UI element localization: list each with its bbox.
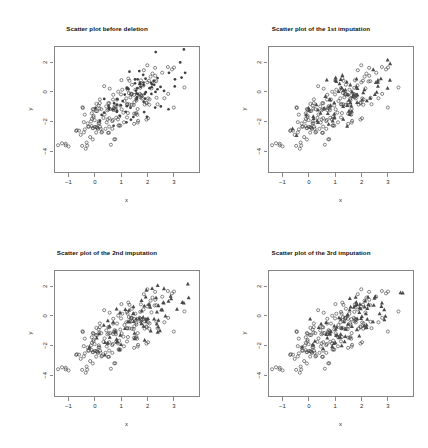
data-point-observed (133, 346, 136, 349)
x-axis-title: x (339, 421, 342, 427)
data-points-layer (57, 48, 187, 150)
data-point-deleted (103, 111, 106, 114)
y-axis-title: y (27, 332, 33, 335)
data-point-imputed (365, 317, 369, 321)
data-point-observed (318, 351, 321, 354)
data-point-observed (82, 121, 85, 124)
data-point-imputed (143, 338, 147, 342)
data-point-observed (123, 323, 126, 326)
data-point-observed (309, 131, 312, 134)
data-point-deleted (116, 111, 119, 114)
data-point-imputed (141, 315, 145, 319)
data-point-deleted (99, 119, 102, 122)
data-point-imputed (365, 98, 369, 102)
data-point-deleted (142, 81, 145, 84)
data-point-deleted (125, 121, 128, 124)
data-point-observed (139, 303, 142, 306)
data-point-deleted (113, 102, 116, 105)
data-point-deleted (150, 93, 153, 96)
data-point-imputed (388, 78, 392, 82)
x-tick-label: 2 (360, 403, 364, 409)
y-tick-label: 0 (256, 314, 262, 318)
data-point-imputed (386, 58, 390, 62)
x-tick-label: 1 (334, 403, 338, 409)
data-point-observed (386, 66, 389, 69)
data-point-imputed (332, 324, 336, 328)
data-point-observed (300, 368, 303, 371)
panel-imputation-3: Scatter plot of the 3rd imputation −1012… (214, 224, 428, 448)
data-point-observed (315, 354, 318, 357)
data-point-observed (319, 105, 322, 108)
y-axis-title: y (241, 108, 247, 111)
data-point-deleted (123, 93, 126, 96)
data-point-deleted (121, 100, 124, 103)
panel-before-deletion: Scatter plot before deletion −1012320−2−… (0, 0, 214, 224)
data-point-deleted (154, 91, 157, 94)
data-point-deleted (183, 48, 186, 51)
x-tick-label: 3 (172, 179, 176, 185)
data-point-observed (315, 130, 318, 133)
data-point-observed (360, 288, 363, 291)
data-point-observed (149, 299, 152, 302)
data-point-observed (274, 142, 277, 145)
data-point-imputed (340, 86, 344, 90)
data-point-observed (381, 316, 384, 319)
data-point-observed (370, 327, 373, 330)
data-point-observed (397, 310, 400, 313)
data-point-observed (154, 74, 157, 77)
data-point-observed (317, 309, 320, 312)
data-point-imputed (149, 329, 153, 333)
data-point-deleted (136, 96, 139, 99)
data-point-imputed (340, 343, 344, 347)
data-point-observed (161, 295, 164, 298)
data-point-deleted (135, 89, 138, 92)
data-point-observed (325, 127, 328, 130)
data-point-observed (125, 116, 128, 119)
data-point-imputed (347, 98, 351, 102)
data-point-observed (115, 322, 118, 325)
data-point-observed (172, 290, 175, 293)
data-point-deleted (124, 110, 127, 113)
data-point-observed (84, 147, 87, 150)
x-tick-label: 3 (172, 403, 176, 409)
data-point-observed (344, 83, 347, 86)
data-point-observed (130, 83, 133, 86)
x-tick-label: 1 (334, 179, 338, 185)
data-point-observed (111, 127, 114, 130)
data-point-observed (386, 330, 389, 333)
data-point-observed (82, 355, 85, 358)
data-point-observed (360, 64, 363, 67)
data-point-observed (119, 328, 122, 331)
data-point-deleted (154, 106, 157, 109)
data-point-observed (183, 310, 186, 313)
figure-canvas: Scatter plot before deletion −1012320−2−… (0, 0, 428, 448)
data-point-observed (156, 103, 159, 106)
data-point-imputed (371, 320, 375, 324)
data-point-imputed (152, 317, 156, 321)
data-point-imputed (144, 288, 148, 292)
y-tick-label: 0 (42, 314, 48, 318)
data-point-imputed (346, 313, 350, 317)
data-point-imputed (155, 310, 159, 314)
data-point-observed (121, 88, 124, 91)
data-point-observed (57, 144, 60, 147)
data-point-observed (108, 349, 111, 352)
data-point-observed (271, 144, 274, 147)
data-point-observed (333, 93, 336, 96)
data-point-imputed (380, 301, 384, 305)
data-point-observed (375, 71, 378, 74)
data-point-deleted (154, 51, 157, 54)
data-point-observed (103, 337, 106, 340)
data-point-observed (336, 345, 339, 348)
x-tick-label: 3 (386, 403, 390, 409)
data-point-observed (337, 99, 340, 102)
data-point-observed (172, 66, 175, 69)
data-point-observed (348, 88, 351, 91)
data-point-imputed (88, 345, 92, 349)
data-point-observed (305, 138, 308, 141)
data-point-deleted (152, 80, 155, 83)
data-point-observed (314, 108, 317, 111)
data-point-observed (172, 106, 175, 109)
data-point-observed (98, 98, 101, 101)
data-point-observed (122, 335, 125, 338)
